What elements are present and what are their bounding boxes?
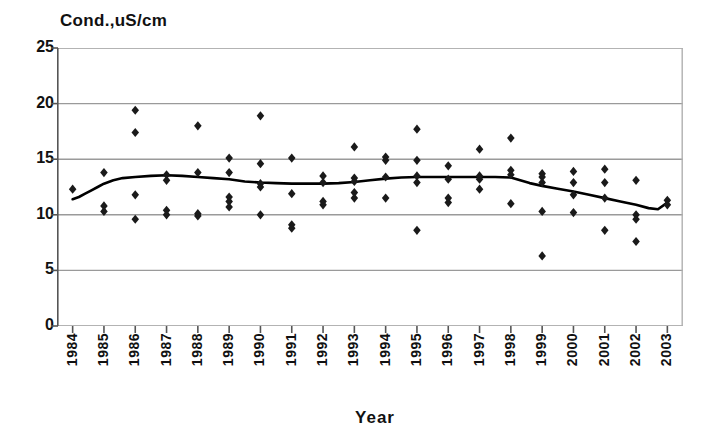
x-tick-label-1990: 1990 [252, 333, 266, 366]
gridlines [57, 48, 683, 326]
data-point [507, 199, 515, 208]
data-point [476, 145, 484, 154]
data-point [570, 208, 578, 217]
y-tick-label-20: 20 [14, 95, 54, 111]
x-tick-label-1994: 1994 [378, 333, 392, 366]
data-point [601, 178, 609, 187]
trend-line [73, 175, 668, 209]
data-point [131, 215, 139, 224]
x-tick-label-1996: 1996 [440, 333, 454, 366]
data-point [632, 237, 640, 246]
x-tick-label-1987: 1987 [159, 333, 173, 366]
data-point [131, 106, 139, 115]
x-tick-label-2001: 2001 [597, 333, 611, 366]
x-axis-title: Year [0, 408, 720, 428]
data-point [413, 156, 421, 165]
data-point [413, 125, 421, 134]
axis-lines [58, 48, 682, 326]
x-tick-label-1999: 1999 [534, 333, 548, 366]
y-tick-label-10: 10 [14, 206, 54, 222]
conductivity-scatter-chart: Cond.,uS/cm 0510152025 19841985198619871… [0, 0, 720, 448]
data-point [570, 167, 578, 176]
plot-area [57, 48, 683, 326]
x-tick-label-2003: 2003 [659, 333, 673, 366]
y-tick-label-15: 15 [14, 150, 54, 166]
data-point [413, 178, 421, 187]
data-point [601, 226, 609, 235]
data-points [69, 106, 671, 261]
data-point [288, 189, 296, 198]
data-point [632, 176, 640, 185]
data-point [351, 194, 359, 203]
x-tick-label-1984: 1984 [65, 333, 79, 366]
x-tick-label-1989: 1989 [221, 333, 235, 366]
data-point [413, 226, 421, 235]
x-tick-label-1985: 1985 [96, 333, 110, 366]
data-point [538, 251, 546, 260]
data-point [601, 194, 609, 203]
x-tick-label-1998: 1998 [503, 333, 517, 366]
y-tick-label-25: 25 [14, 39, 54, 55]
data-point [225, 153, 233, 162]
data-point [163, 176, 171, 185]
data-point [319, 178, 327, 187]
data-point [257, 159, 265, 168]
data-point [382, 194, 390, 203]
data-point [69, 185, 77, 194]
x-axis-title-text: Year [355, 408, 395, 428]
data-point [570, 178, 578, 187]
data-point [444, 161, 452, 170]
data-point [476, 185, 484, 194]
x-tick-label-1993: 1993 [346, 333, 360, 366]
trend-line-path [73, 175, 668, 209]
x-tick-label-1997: 1997 [472, 333, 486, 366]
x-tick-label-2000: 2000 [565, 333, 579, 366]
data-point [507, 133, 515, 142]
data-point [131, 128, 139, 137]
y-tick-label-5: 5 [14, 261, 54, 277]
data-point [288, 153, 296, 162]
x-tick-label-1992: 1992 [315, 333, 329, 366]
data-point [257, 111, 265, 120]
data-point [225, 168, 233, 177]
x-tick-label-1988: 1988 [190, 333, 204, 366]
data-point [194, 121, 202, 130]
x-tick-label-1991: 1991 [284, 333, 298, 366]
data-point [351, 142, 359, 151]
data-point [601, 165, 609, 174]
x-tick-label-2002: 2002 [628, 333, 642, 366]
y-tick-label-0: 0 [14, 317, 54, 333]
data-point [100, 168, 108, 177]
data-point [257, 210, 265, 219]
x-tick-label-1986: 1986 [127, 333, 141, 366]
data-point [131, 190, 139, 199]
x-tick-label-1995: 1995 [409, 333, 423, 366]
data-point [225, 202, 233, 211]
